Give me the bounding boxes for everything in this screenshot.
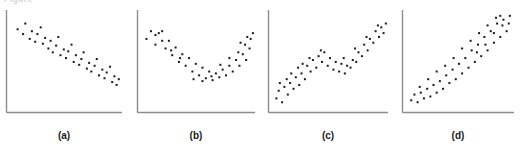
data-point (36, 33, 38, 35)
data-point (50, 40, 52, 42)
data-point (444, 65, 446, 67)
data-point (312, 59, 314, 61)
data-point (193, 78, 195, 80)
data-point (281, 101, 283, 103)
data-point (185, 65, 187, 67)
data-point (332, 69, 334, 71)
data-point (290, 72, 292, 74)
scatter-panel-b: (b) (133, 6, 259, 152)
data-point (343, 57, 345, 59)
data-point (509, 15, 511, 17)
data-point (154, 44, 156, 46)
data-point (83, 51, 85, 53)
data-point (181, 53, 183, 55)
data-point (109, 66, 111, 68)
data-point (378, 36, 380, 38)
scatter-svg (133, 6, 259, 128)
data-point (355, 61, 357, 63)
data-point (436, 92, 438, 94)
data-point (215, 72, 217, 74)
data-point (242, 53, 244, 55)
data-point (208, 71, 210, 73)
data-point (363, 44, 365, 46)
data-point (171, 54, 173, 56)
data-point (222, 69, 224, 71)
scatter-panel-a: (a) (2, 6, 126, 152)
data-point (106, 71, 108, 73)
data-point (358, 51, 360, 53)
data-point (228, 57, 230, 59)
data-point (210, 75, 212, 77)
data-point (318, 55, 320, 57)
data-point (175, 47, 177, 49)
data-point (323, 51, 325, 53)
data-point (57, 36, 59, 38)
data-point (154, 34, 156, 36)
data-point (86, 68, 88, 70)
data-point (80, 58, 82, 60)
panel-caption-a: (a) (2, 130, 126, 141)
data-point (24, 23, 26, 25)
data-point (502, 19, 504, 21)
plot-area-b (133, 6, 259, 128)
data-point (335, 61, 337, 63)
data-point (506, 30, 508, 32)
data-point (493, 32, 495, 34)
data-point (52, 51, 54, 53)
data-point (212, 79, 214, 81)
data-points (275, 23, 386, 104)
data-point (338, 71, 340, 73)
data-point (286, 78, 288, 80)
data-point (44, 37, 46, 39)
data-point (237, 51, 239, 53)
data-point (78, 64, 80, 66)
data-point (467, 67, 469, 69)
data-point (350, 67, 352, 69)
scatter-panel-d: (d) (398, 6, 518, 152)
data-point (275, 97, 277, 99)
data-point (232, 71, 234, 73)
plot-area-d (398, 6, 518, 128)
data-point (478, 32, 480, 34)
data-point (249, 47, 251, 49)
data-point (252, 32, 254, 34)
data-point (118, 78, 120, 80)
data-point (201, 80, 203, 82)
data-points (145, 30, 253, 82)
scatter-svg (398, 6, 518, 128)
data-point (480, 55, 482, 57)
data-point (250, 38, 252, 40)
data-point (179, 57, 181, 59)
data-point (448, 82, 450, 84)
data-point (165, 47, 167, 49)
data-point (297, 67, 299, 69)
data-point (218, 76, 220, 78)
data-point (372, 42, 374, 44)
data-point (417, 101, 419, 103)
data-point (413, 94, 415, 96)
data-point (474, 61, 476, 63)
data-point (111, 81, 113, 83)
data-point (71, 44, 73, 46)
data-point (245, 59, 247, 61)
data-point (22, 33, 24, 35)
panel-caption-d: (d) (398, 130, 518, 141)
data-point (369, 38, 371, 40)
data-point (168, 40, 170, 42)
data-point (433, 84, 435, 86)
data-point (289, 82, 291, 84)
data-point (287, 94, 289, 96)
data-point (90, 71, 92, 73)
panel-caption-c: (c) (264, 130, 392, 141)
data-point (320, 49, 322, 51)
data-point (427, 78, 429, 80)
data-point (116, 84, 118, 86)
data-point (170, 49, 172, 51)
data-point (445, 74, 447, 76)
data-point (439, 80, 441, 82)
data-point (354, 47, 356, 49)
data-point (75, 54, 77, 56)
data-point (301, 72, 303, 74)
panel-caption-b: (b) (133, 130, 259, 141)
data-point (244, 44, 246, 46)
